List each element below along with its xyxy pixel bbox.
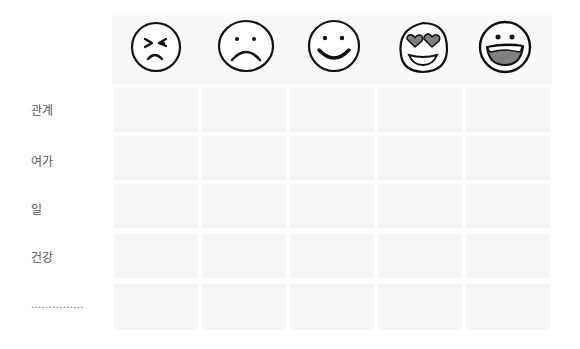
grid-cell[interactable] bbox=[466, 284, 550, 330]
row-label-relationship: 관계 bbox=[31, 103, 53, 119]
sad-face-icon bbox=[216, 16, 276, 76]
grid-cell[interactable] bbox=[378, 234, 462, 278]
row-label-other: ............... bbox=[31, 297, 83, 313]
grid-cell[interactable] bbox=[466, 88, 550, 132]
grid-cell[interactable] bbox=[202, 184, 286, 228]
grid-cell[interactable] bbox=[378, 88, 462, 132]
heart-eyes-face-icon bbox=[393, 17, 453, 77]
grid-cell[interactable] bbox=[202, 136, 286, 180]
grid-cell[interactable] bbox=[202, 234, 286, 278]
grid-cell[interactable] bbox=[290, 234, 374, 278]
grid-cell[interactable] bbox=[466, 234, 550, 278]
grid-cell[interactable] bbox=[290, 284, 374, 330]
grid-cell[interactable] bbox=[114, 284, 198, 330]
grid-cell[interactable] bbox=[114, 88, 198, 132]
grid-cell[interactable] bbox=[378, 284, 462, 330]
grid-cell[interactable] bbox=[114, 234, 198, 278]
angry-face-icon bbox=[126, 17, 186, 77]
grid-cell[interactable] bbox=[202, 88, 286, 132]
grid-cell[interactable] bbox=[290, 184, 374, 228]
row-label-health: 건강 bbox=[31, 250, 53, 266]
grid-cell[interactable] bbox=[466, 184, 550, 228]
grid-cell[interactable] bbox=[202, 284, 286, 330]
grid-cell[interactable] bbox=[290, 136, 374, 180]
grid-cell[interactable] bbox=[378, 136, 462, 180]
row-label-work: 일 bbox=[31, 202, 42, 218]
grinning-face-icon bbox=[475, 17, 535, 77]
smiling-face-icon bbox=[304, 16, 364, 76]
grid-cell[interactable] bbox=[114, 136, 198, 180]
row-label-leisure: 여가 bbox=[31, 154, 53, 170]
grid-cell[interactable] bbox=[378, 184, 462, 228]
grid-cell[interactable] bbox=[114, 184, 198, 228]
grid-cell[interactable] bbox=[290, 88, 374, 132]
grid-cell[interactable] bbox=[466, 136, 550, 180]
